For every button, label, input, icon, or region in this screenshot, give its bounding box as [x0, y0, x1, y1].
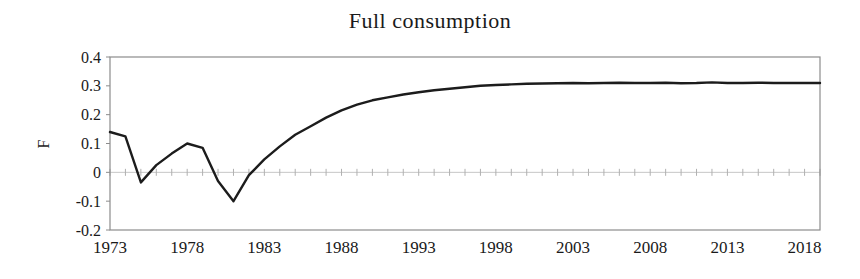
- x-tick-label: 1973: [93, 238, 127, 257]
- x-tick-label: 1998: [479, 238, 513, 257]
- zero-axis: [110, 169, 820, 176]
- y-tick-label: 0.2: [81, 106, 101, 123]
- x-tick-label: 2013: [710, 238, 744, 257]
- x-tick-label: 2008: [633, 238, 667, 257]
- x-axis-tick-labels: 1973197819831988199319982003200820132018: [93, 238, 822, 257]
- x-tick-label: 1988: [325, 238, 359, 257]
- y-tick-label: -0.1: [76, 193, 101, 210]
- y-tick-label: -0.2: [76, 222, 101, 239]
- chart-title: Full consumption: [0, 8, 860, 34]
- x-tick-label: 2003: [556, 238, 590, 257]
- y-tick-label: 0.1: [81, 135, 101, 152]
- y-axis-tick-labels: 0.40.30.20.10-0.1-0.2: [76, 49, 101, 239]
- x-tick-label: 1983: [247, 238, 281, 257]
- chart-figure: Full consumption F 197319781983198819931…: [0, 0, 860, 279]
- y-tick-label: 0.4: [81, 49, 101, 66]
- y-tick-label: 0.3: [81, 77, 101, 94]
- x-tick-label: 1978: [170, 238, 204, 257]
- series-polyline: [110, 82, 820, 201]
- x-tick-label: 2018: [788, 238, 822, 257]
- x-tick-label: 1993: [402, 238, 436, 257]
- y-axis-title: F: [30, 130, 58, 158]
- y-tick-label: 0: [93, 164, 101, 181]
- line-chart-canvas: 1973197819831988199319982003200820132018…: [0, 0, 860, 279]
- series-line-full-consumption: [110, 82, 820, 201]
